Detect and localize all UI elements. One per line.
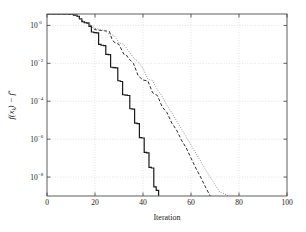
x-tick-label-3: 60 bbox=[187, 198, 195, 207]
y-tick-exponent-2: −4 bbox=[38, 96, 44, 101]
y-tick-mantissa-4: 10 bbox=[30, 173, 38, 182]
x-tick-label-1: 20 bbox=[91, 198, 99, 207]
y-tick-exponent-1: −2 bbox=[38, 58, 44, 63]
y-tick-mantissa-2: 10 bbox=[30, 97, 38, 106]
x-tick-label-4: 80 bbox=[235, 198, 243, 207]
y-tick-exponent-3: −6 bbox=[38, 134, 44, 139]
x-axis-title: Iteration bbox=[153, 213, 180, 222]
y-title-close: ) bbox=[6, 105, 16, 109]
x-tick-label-0: 0 bbox=[45, 198, 49, 207]
convergence-plot: 020406080100 10010−210−410−610−8 Iterati… bbox=[0, 0, 306, 232]
x-tick-label-5: 100 bbox=[281, 198, 293, 207]
figure-container: 020406080100 10010−210−410−610−8 Iterati… bbox=[0, 0, 306, 232]
y-title-minus: − bbox=[6, 98, 16, 104]
y-title-star: * bbox=[7, 90, 13, 93]
x-tick-label-2: 40 bbox=[139, 198, 147, 207]
y-tick-mantissa-1: 10 bbox=[30, 59, 38, 68]
x-axis-title-text: Iteration bbox=[153, 213, 180, 222]
y-tick-mantissa-0: 10 bbox=[30, 21, 38, 30]
y-tick-mantissa-3: 10 bbox=[30, 135, 38, 144]
y-tick-exponent-4: −8 bbox=[38, 172, 44, 177]
